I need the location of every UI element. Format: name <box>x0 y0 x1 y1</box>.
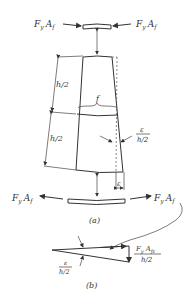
b-angle-denominator: h/2 <box>59 268 70 276</box>
leader-curve <box>110 203 182 249</box>
web-element <box>76 56 123 173</box>
caption-b: (b) <box>86 281 97 290</box>
b-force-numerator: FyAfε <box>135 245 156 255</box>
upper-half-label: h/2 <box>56 80 69 89</box>
top-right-force-label: FyAf <box>135 19 158 31</box>
brace-label: f <box>95 94 101 103</box>
top-left-force-arrow <box>63 24 81 26</box>
bottom-left-force-label: FyAf <box>11 193 34 205</box>
offset-label: ε <box>117 180 121 188</box>
b-force-denominator: h/2 <box>141 256 153 264</box>
bottom-right-force-label: FyAf <box>153 193 176 205</box>
bottom-flange <box>68 199 125 205</box>
bottom-right-force-arrow <box>130 196 151 199</box>
diagram-canvas: FyAf FyAf f h/2 h/2 ε h/2 ε FyAf FyAf <box>0 0 195 299</box>
b-angle-numerator: ε <box>64 259 67 266</box>
top-right-force-arrow <box>113 24 131 26</box>
top-flange <box>83 24 111 29</box>
angle-numerator: ε <box>140 126 144 134</box>
angle-denominator: h/2 <box>137 136 149 144</box>
bottom-left-force-arrow <box>40 196 63 199</box>
lower-half-label: h/2 <box>50 134 63 143</box>
top-left-force-label: FyAf <box>33 19 56 31</box>
caption-a: (a) <box>89 216 100 225</box>
